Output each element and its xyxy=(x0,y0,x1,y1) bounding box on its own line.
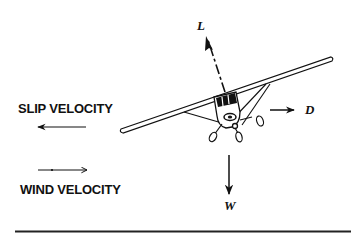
weight-label: W xyxy=(224,198,236,214)
wind-velocity-arrow xyxy=(38,169,87,171)
wind-velocity-label: WIND VELOCITY xyxy=(20,182,121,197)
drag-label: D xyxy=(305,102,314,118)
lift-label: L xyxy=(197,18,205,34)
aircraft-diagram-graphic xyxy=(0,0,353,233)
fuselage xyxy=(214,92,240,129)
diagram-canvas: SLIP VELOCITY WIND VELOCITY L D W xyxy=(0,0,353,233)
slip-velocity-label: SLIP VELOCITY xyxy=(18,101,113,116)
lift-arrow xyxy=(205,36,225,92)
